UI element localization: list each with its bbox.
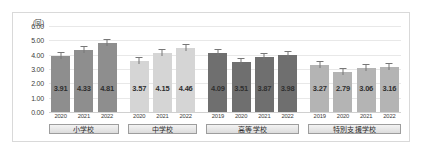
bar-group: 3.574.154.46 (128, 26, 198, 112)
bar-group: 3.272.793.063.16 (308, 26, 401, 112)
error-bar (389, 63, 390, 70)
error-bar-cap (159, 49, 166, 50)
bar[interactable]: 3.06 (357, 68, 376, 112)
y-axis-tick-label: 3.00 (31, 66, 44, 73)
y-axis-tick-label: 6.00 (31, 23, 44, 30)
y-axis-tick-label: 0.00 (31, 109, 44, 116)
plot-area: 3.914.334.813.574.154.464.093.513.873.98… (49, 26, 401, 112)
group-label-2: 中学校 (128, 124, 198, 134)
bar-value-label: 4.09 (211, 84, 225, 93)
x-axis-group: 202020212022 (49, 113, 119, 122)
bar-slot: 3.16 (378, 26, 401, 112)
group-label-wrap: 特別支援学校 (308, 124, 401, 134)
bar-value-label: 3.27 (313, 84, 327, 93)
bar-slot: 4.09 (206, 26, 229, 112)
bar-value-label: 4.33 (77, 84, 91, 93)
error-bar (264, 53, 265, 60)
bar-slot: 3.98 (276, 26, 299, 112)
bar-group: 4.093.513.873.98 (206, 26, 299, 112)
x-axis-tick-label: 2022 (276, 113, 299, 122)
bar-group: 3.914.334.81 (49, 26, 119, 112)
error-bar-cap (214, 49, 221, 50)
y-axis-tick-label: 5.00 (31, 37, 44, 44)
error-bar-cap (182, 44, 189, 45)
x-axis-group: 2019202020212022 (308, 113, 401, 122)
bar-value-label: 3.98 (281, 84, 295, 93)
error-bar-cap (316, 61, 323, 62)
bar-slot: 4.33 (72, 26, 95, 112)
group-label-1: 小学校 (49, 124, 119, 134)
bar[interactable]: 3.27 (310, 65, 329, 112)
group-label-wrap: 中学校 (128, 124, 198, 134)
error-bar (217, 49, 218, 56)
error-bar-cap (339, 68, 346, 69)
bar-slot: 4.46 (174, 26, 197, 112)
x-axis-tick-label: 2020 (230, 113, 253, 122)
bar[interactable]: 3.57 (130, 61, 149, 112)
error-bar-cap (104, 39, 111, 40)
error-bar-cap (238, 58, 245, 59)
x-axis-tick-label: 2021 (355, 113, 378, 122)
group-label-4: 特別支援学校 (308, 124, 401, 134)
bar-slot: 3.57 (128, 26, 151, 112)
error-bar (342, 68, 343, 75)
error-bar (60, 52, 61, 59)
bar-slot: 3.91 (49, 26, 72, 112)
bar[interactable]: 4.15 (153, 53, 172, 112)
bar-slot: 4.81 (95, 26, 118, 112)
x-axis-tick-label: 2019 (206, 113, 229, 122)
bar-value-label: 3.91 (54, 84, 68, 93)
bar[interactable]: 4.09 (208, 53, 227, 112)
bar[interactable]: 4.46 (176, 48, 195, 112)
group-label-3: 高等学校 (206, 124, 299, 134)
bar-slot: 3.51 (230, 26, 253, 112)
bar-value-label: 2.79 (336, 84, 350, 93)
error-bar (107, 39, 108, 46)
bar[interactable]: 2.79 (333, 72, 352, 112)
bar-value-label: 4.81 (100, 84, 114, 93)
x-axis-tick-label: 2022 (174, 113, 197, 122)
y-axis-tick-label: 4.00 (31, 51, 44, 58)
bar-value-label: 3.87 (257, 84, 271, 93)
error-bar (162, 49, 163, 56)
error-bar (83, 46, 84, 53)
x-axis-tick-label: 2022 (378, 113, 401, 122)
bar-slot: 3.27 (308, 26, 331, 112)
error-bar-cap (284, 51, 291, 52)
bar[interactable]: 4.81 (98, 43, 117, 112)
bar[interactable]: 3.51 (232, 62, 251, 112)
y-axis-tick-label: 1.00 (31, 94, 44, 101)
y-axis: 6.005.004.003.002.001.000.00 (13, 26, 47, 112)
x-axis-tick-label: 2020 (128, 113, 151, 122)
error-bar (366, 64, 367, 71)
bar-value-label: 4.46 (179, 84, 193, 93)
error-bar-cap (261, 53, 268, 54)
chart-frame: (回) 6.005.004.003.002.001.000.00 3.914.3… (12, 12, 410, 142)
bar[interactable]: 3.16 (380, 67, 399, 112)
y-axis-tick-label: 2.00 (31, 80, 44, 87)
bar-slot: 4.15 (151, 26, 174, 112)
bar-value-label: 3.51 (234, 84, 248, 93)
x-axis-group: 202020212022 (128, 113, 198, 122)
bar-slot: 3.06 (355, 26, 378, 112)
bar[interactable]: 4.33 (74, 50, 93, 112)
bar-value-label: 3.16 (383, 84, 397, 93)
bar[interactable]: 3.98 (278, 55, 297, 112)
bar-slot: 2.79 (331, 26, 354, 112)
error-bar-cap (136, 57, 143, 58)
x-axis-tick-label: 2021 (72, 113, 95, 122)
x-axis-tick-label: 2020 (49, 113, 72, 122)
error-bar-cap (57, 52, 64, 53)
error-bar-cap (80, 46, 87, 47)
bar[interactable]: 3.87 (255, 57, 274, 112)
x-axis-tick-label: 2019 (308, 113, 331, 122)
error-bar (241, 58, 242, 65)
error-bar (319, 61, 320, 68)
x-axis-tick-label: 2022 (95, 113, 118, 122)
x-axis-tick-label: 2020 (331, 113, 354, 122)
error-bar (139, 57, 140, 64)
bar-value-label: 3.57 (132, 84, 146, 93)
error-bar (185, 44, 186, 51)
bar[interactable]: 3.91 (51, 56, 70, 112)
error-bar (287, 51, 288, 58)
